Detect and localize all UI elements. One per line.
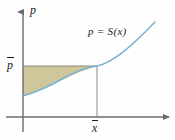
p-axis-label: p <box>30 4 36 16</box>
supply-curve-figure: p p = S(x) p x <box>0 0 175 140</box>
price-tick-label-text: p <box>7 57 13 71</box>
quantity-tick-label-text: x <box>92 120 97 134</box>
supply-curve-label: p = S(x) <box>88 26 127 37</box>
quantity-tick-label: x <box>92 120 97 134</box>
price-tick-label: p <box>7 57 13 71</box>
figure-canvas <box>0 0 175 140</box>
